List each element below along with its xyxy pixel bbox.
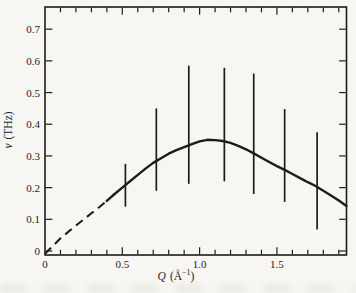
figure: ν(THz) Q(Å−1) 0.70.60.50.40.30.20.10 00.…: [0, 0, 356, 293]
plot-frame: [45, 7, 347, 255]
y-tick-label: 0.1: [26, 214, 40, 225]
x-tick-label: 0: [42, 259, 48, 270]
y-axis-variable: ν: [2, 143, 14, 148]
y-axis-title: ν(THz): [3, 111, 15, 148]
y-tick-label: 0.7: [26, 24, 40, 35]
y-tick-label: 0.5: [26, 87, 40, 98]
x-tick-label: 1.5: [270, 259, 284, 270]
x-tick-label: 1.0: [193, 259, 207, 270]
y-tick-label: 0.6: [26, 55, 40, 66]
curve-dashed-segment: [45, 201, 107, 254]
y-tick-label: 0.3: [26, 150, 40, 161]
x-axis-title: Q(Å−1): [158, 271, 195, 283]
x-axis-unit: (Å−1): [170, 270, 195, 282]
x-tick-label: 0.5: [115, 259, 129, 270]
x-axis-unit-exponent: −1: [182, 268, 191, 277]
x-axis-unit-close: ): [191, 270, 195, 282]
x-axis-variable: Q: [158, 270, 166, 282]
plot-canvas: [0, 0, 356, 293]
scan-artifact: [0, 284, 356, 293]
y-tick-label: 0: [35, 246, 41, 257]
x-axis-unit-open: (Å: [170, 270, 182, 282]
y-axis-unit: (THz): [2, 111, 14, 139]
y-tick-label: 0.2: [26, 182, 40, 193]
y-tick-label: 0.4: [26, 119, 40, 130]
curve-solid-segment: [107, 140, 347, 206]
